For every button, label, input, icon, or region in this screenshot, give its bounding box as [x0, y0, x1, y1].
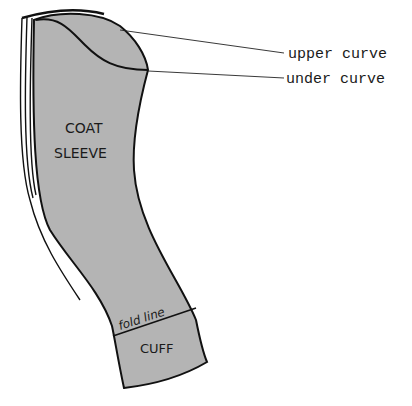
coat-label: COAT	[65, 120, 103, 136]
upper-curve-leader	[120, 30, 284, 53]
sleeve-label: SLEEVE	[54, 145, 107, 161]
cuff-label: CUFF	[140, 341, 174, 356]
under-curve-leader	[148, 71, 284, 78]
upper-curve-label: upper curve	[288, 46, 387, 63]
under-curve-label: under curve	[286, 71, 385, 88]
coat-sleeve-diagram: upper curve under curve COAT SLEEVE fold…	[0, 0, 412, 406]
